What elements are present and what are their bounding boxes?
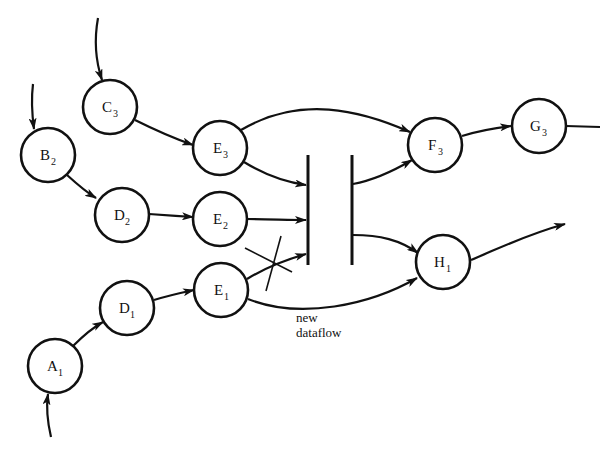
node-e1-sub: 1 <box>224 291 229 302</box>
edge-e3-f3 <box>241 109 410 132</box>
node-c3: C 3 <box>83 80 137 134</box>
node-h1-sub: 1 <box>446 263 451 274</box>
annotation-line1: new <box>296 310 318 325</box>
edge-f3-g3 <box>462 126 511 136</box>
node-d1-letter: D <box>119 300 130 316</box>
removed-edge-cross-icon <box>245 236 292 291</box>
node-e2-letter: E <box>213 211 222 227</box>
edge-b2-d2 <box>67 175 96 198</box>
node-g3-letter: G <box>530 118 541 134</box>
edge-e3-store <box>244 162 306 185</box>
node-b2: B 2 <box>21 128 75 182</box>
node-e2-sub: 2 <box>223 220 228 231</box>
edge-input-b2 <box>32 84 34 129</box>
edge-g3-output <box>566 126 600 127</box>
node-a1-letter: A <box>47 358 58 374</box>
edge-input-a1 <box>47 394 51 437</box>
node-a1-sub: 1 <box>58 367 63 378</box>
edge-store-f3 <box>353 160 412 184</box>
data-store <box>308 155 352 265</box>
edge-a1-d1 <box>73 322 103 346</box>
node-d2: D 2 <box>95 188 149 242</box>
edge-d2-e2 <box>149 214 193 217</box>
node-h1: H 1 <box>416 235 470 289</box>
edge-e2-store <box>247 219 306 220</box>
node-g3: G 3 <box>512 99 566 153</box>
edge-store-h1 <box>353 235 418 253</box>
node-f3-letter: F <box>428 137 436 153</box>
node-h1-letter: H <box>434 254 445 270</box>
edge-c3-e3 <box>135 120 193 145</box>
edge-input-c3 <box>96 18 102 80</box>
node-f3: F 3 <box>408 118 462 172</box>
node-e3-sub: 3 <box>223 149 228 160</box>
node-b2-sub: 2 <box>51 156 56 167</box>
node-c3-letter: C <box>102 99 112 115</box>
new-dataflow-annotation: new dataflow <box>296 310 342 340</box>
node-b2-letter: B <box>40 147 50 163</box>
dataflow-diagram: C 3 B 2 E 3 D 2 E 2 E 1 D 1 A 1 F 3 <box>0 0 600 449</box>
node-e3-letter: E <box>213 140 222 156</box>
node-d1-sub: 1 <box>130 309 135 320</box>
node-e2: E 2 <box>193 192 247 246</box>
node-e1: E 1 <box>194 263 248 317</box>
edge-h1-output <box>471 224 565 260</box>
node-e1-letter: E <box>214 282 223 298</box>
node-e3: E 3 <box>193 121 247 175</box>
edge-d1-e1 <box>154 290 194 300</box>
node-d1: D 1 <box>100 281 154 335</box>
annotation-line2: dataflow <box>296 325 342 340</box>
node-d2-letter: D <box>114 207 125 223</box>
edge-e1-store-removed <box>247 254 306 279</box>
node-f3-sub: 3 <box>438 146 443 157</box>
node-c3-sub: 3 <box>113 108 118 119</box>
node-a1: A 1 <box>28 339 82 393</box>
edge-e1-h1-new-dataflow <box>248 278 417 309</box>
node-d2-sub: 2 <box>125 216 130 227</box>
node-g3-sub: 3 <box>542 127 547 138</box>
